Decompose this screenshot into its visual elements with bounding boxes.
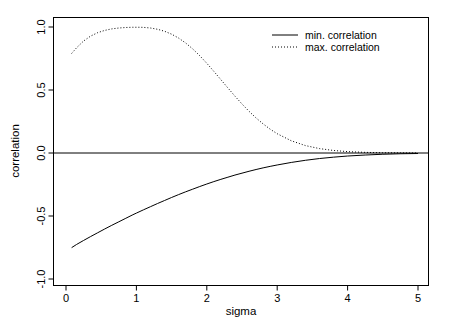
x-axis-ticks: 012345 [63,286,421,305]
y-tick-label: 0.0 [35,145,47,160]
legend-label: min. correlation [305,29,377,41]
data-series-group [72,27,418,247]
x-tick-label: 2 [204,292,210,304]
y-axis-title: correlation [9,124,21,178]
y-tick-label: 0.5 [35,82,47,97]
x-tick-label: 4 [345,292,351,304]
x-tick-label: 5 [415,292,421,304]
chart-plot-area: 012345 -1.0-0.50.00.51.0 sigma correlati… [0,0,449,328]
plot-frame-box [54,18,429,286]
x-axis-title: sigma [226,305,257,317]
x-tick-label: 1 [133,292,139,304]
x-tick-label: 3 [274,292,280,304]
y-tick-label: -0.5 [35,207,47,226]
legend-label: max. correlation [305,41,380,53]
y-axis-ticks: -1.0-0.50.00.51.0 [35,19,54,288]
y-tick-label: -1.0 [35,270,47,289]
chart-legend: min. correlationmax. correlation [272,29,380,53]
y-tick-label: 1.0 [35,19,47,34]
series-line-min [72,154,418,248]
x-tick-label: 0 [63,292,69,304]
correlation-bounds-chart: 012345 -1.0-0.50.00.51.0 sigma correlati… [0,0,449,328]
